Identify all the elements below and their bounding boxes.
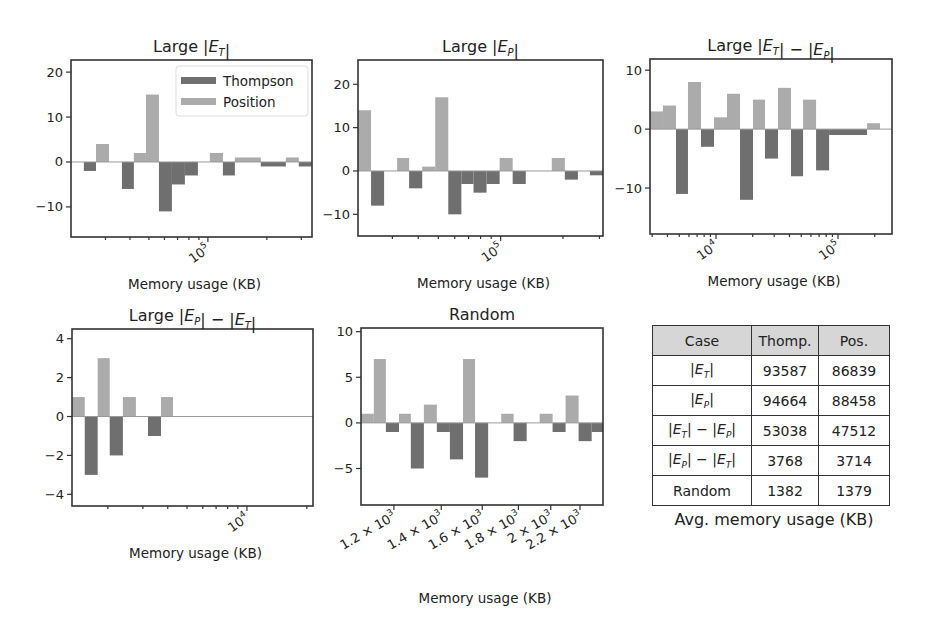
cell-position: 1379 xyxy=(819,476,890,506)
bar-position xyxy=(500,158,513,171)
table-row: |ET|9358786839 xyxy=(653,356,890,386)
cell-thompson: 1382 xyxy=(752,476,819,506)
bar-thompson xyxy=(85,417,98,475)
x-axis-label: Memory usage (KB) xyxy=(708,273,841,289)
y-tick-label: −4 xyxy=(45,487,64,502)
bar-position xyxy=(361,414,374,423)
x-axis-label: Memory usage (KB) xyxy=(128,276,261,292)
axes-frame xyxy=(358,60,603,236)
y-tick-label: −10 xyxy=(323,207,350,222)
subplot-large-ep-minus-et: −4−2024104Large |EP| − |ET|Memory usage … xyxy=(45,306,313,561)
x-axis-label: Memory usage (KB) xyxy=(419,590,552,606)
bar-position xyxy=(650,111,663,129)
bar-position xyxy=(399,414,411,423)
bar-thompson xyxy=(148,417,161,436)
x-axis-label: Memory usage (KB) xyxy=(417,275,550,291)
bar-thompson xyxy=(110,417,123,456)
y-tick-label: −2 xyxy=(45,448,64,463)
x-tick-label: 105 xyxy=(815,237,843,264)
y-tick-label: 20 xyxy=(333,77,350,92)
bar-thompson xyxy=(261,162,286,166)
x-tick-label: 105 xyxy=(185,240,213,267)
cell-case: |EP| xyxy=(653,386,752,416)
cell-case: |ET| − |EP| xyxy=(653,416,752,446)
column-header-position: Pos. xyxy=(819,326,890,356)
legend-label-position: Position xyxy=(223,94,276,110)
bar-position xyxy=(552,158,565,171)
legend-swatch-position xyxy=(181,98,216,105)
bar-position xyxy=(778,88,791,129)
bar-position xyxy=(424,405,437,423)
bar-thompson xyxy=(450,423,463,459)
bar-position xyxy=(210,153,223,162)
bar-position xyxy=(566,396,579,423)
bar-thompson xyxy=(487,171,500,184)
cell-thompson: 3768 xyxy=(752,446,819,476)
bar-thompson xyxy=(553,423,566,432)
bar-thompson xyxy=(513,171,526,184)
bar-position xyxy=(714,117,727,129)
bar-thompson xyxy=(409,171,422,188)
y-tick-label: 0 xyxy=(342,163,350,178)
bar-position xyxy=(463,359,475,423)
legend-swatch-thompson xyxy=(181,77,216,84)
y-tick-label: 20 xyxy=(46,65,63,80)
bar-position xyxy=(96,144,109,162)
bar-thompson xyxy=(122,162,134,189)
bar-thompson xyxy=(816,129,829,170)
y-tick-label: 10 xyxy=(333,120,350,135)
y-tick-label: −10 xyxy=(615,181,642,196)
y-tick-label: −10 xyxy=(36,199,63,214)
bar-position xyxy=(867,123,880,129)
cell-thompson: 93587 xyxy=(752,356,819,386)
y-tick-label: 10 xyxy=(336,324,353,339)
table-row: Random13821379 xyxy=(653,476,890,506)
legend: ThompsonPosition xyxy=(176,66,308,116)
bar-thompson xyxy=(791,129,803,176)
bar-thompson xyxy=(829,129,867,135)
bar-position xyxy=(422,167,435,171)
bar-position xyxy=(123,397,136,416)
cell-position: 47512 xyxy=(819,416,890,446)
bar-position xyxy=(753,100,765,129)
bar-thompson xyxy=(740,129,753,200)
bar-thompson xyxy=(590,171,603,175)
subplot-random: −505101.2 × 1031.4 × 1031.6 × 1031.8 × 1… xyxy=(334,305,603,606)
bar-position xyxy=(235,157,261,161)
table-row: |ET| − |EP|5303847512 xyxy=(653,416,890,446)
y-tick-label: 10 xyxy=(46,110,63,125)
cell-thompson: 94664 xyxy=(752,386,819,416)
subplot-title: Large |ET| xyxy=(153,37,230,60)
bar-thompson xyxy=(565,171,578,180)
avg-memory-table: Case Thomp. Pos. |ET|9358786839|EP|94664… xyxy=(652,325,890,506)
y-tick-label: 5 xyxy=(345,370,353,385)
subplot-large-et: −1001020105Large |ET|Memory usage (KB)Th… xyxy=(36,37,312,292)
bar-position xyxy=(72,397,85,416)
x-tick-label: 105 xyxy=(477,239,505,266)
y-tick-label: 0 xyxy=(634,122,642,137)
bar-position xyxy=(688,82,701,129)
bar-thompson xyxy=(299,162,312,166)
bar-position xyxy=(146,95,159,162)
table-row: |EP| − |ET|37683714 xyxy=(653,446,890,476)
bar-thompson xyxy=(514,423,527,441)
y-tick-label: 4 xyxy=(56,331,64,346)
bar-thompson xyxy=(437,423,450,432)
bar-position xyxy=(161,397,173,416)
cell-position: 86839 xyxy=(819,356,890,386)
y-tick-label: −5 xyxy=(334,461,353,476)
legend-label-thompson: Thompson xyxy=(222,73,294,89)
subplot-large-ep: −1001020105Large |EP|Memory usage (KB) xyxy=(323,37,603,291)
bar-thompson xyxy=(701,129,714,147)
bar-position xyxy=(540,414,553,423)
y-tick-label: 0 xyxy=(345,415,353,430)
subplot-large-et-minus-ep: −10010104105Large |ET| − |EP|Memory usag… xyxy=(615,36,892,289)
table-row: |EP|9466488458 xyxy=(653,386,890,416)
bar-position xyxy=(435,97,448,171)
y-tick-label: 0 xyxy=(56,409,64,424)
cell-case: |EP| − |ET| xyxy=(653,446,752,476)
bar-position xyxy=(134,153,146,162)
y-tick-label: 10 xyxy=(625,63,642,78)
y-tick-label: 2 xyxy=(56,370,64,385)
bar-thompson xyxy=(592,423,603,432)
